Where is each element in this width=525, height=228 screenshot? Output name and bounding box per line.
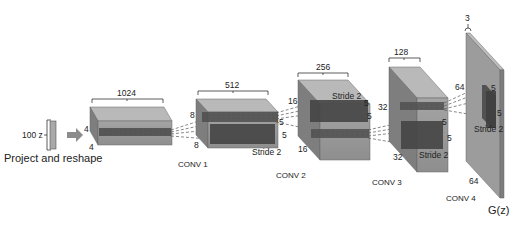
project-depth-label: 4 — [89, 142, 94, 152]
project-width-label: 1024 — [117, 88, 136, 98]
conv4-height-label: 64 — [455, 82, 465, 92]
conv3-block: 128 32 32 5 5 Stride 2 — [378, 47, 452, 172]
conv4-depth-label: 64 — [469, 176, 479, 186]
conv2-block: 256 16 16 5 5 Stride 2 — [288, 62, 372, 160]
project-caption: Project and reshape — [4, 152, 102, 164]
conv1-depth-label: 8 — [194, 140, 199, 150]
conv4-kernel-b: 5 — [497, 108, 502, 118]
conv3-stride-label: Stride 2 — [419, 150, 449, 160]
conv3-height-label: 32 — [378, 102, 388, 112]
conv2-kernel-b: 5 — [367, 111, 372, 121]
diagram-canvas: 100 z Project and reshape 1024 4 4 512 — [0, 0, 525, 228]
conv1-width-label: 512 — [225, 80, 239, 90]
conv2-depth-label: 16 — [298, 144, 308, 154]
project-arrow-icon — [67, 128, 83, 142]
conv2-kernel-a: 5 — [364, 98, 369, 108]
architecture-diagram: 100 z Project and reshape 1024 4 4 512 — [0, 0, 525, 228]
conv2-width-label: 256 — [316, 62, 330, 72]
conv4-width-label: 3 — [465, 13, 470, 23]
input-z-vector: 100 z — [22, 120, 56, 150]
conv1-height-label: 8 — [190, 110, 195, 120]
conv4-caption: CONV 4 — [446, 194, 476, 203]
conv3-depth-label: 32 — [393, 152, 403, 162]
conv3-kernel-a: 5 — [442, 117, 447, 127]
conv3-kernel-b: 5 — [447, 133, 452, 143]
conv4-kernel-a: 5 — [491, 83, 496, 93]
conv3-width-label: 128 — [394, 47, 408, 57]
conv1-kernel-b: 5 — [282, 130, 287, 140]
output-label: G(z) — [488, 204, 509, 216]
conv1-caption: CONV 1 — [178, 160, 208, 169]
conv3-caption: CONV 3 — [372, 178, 402, 187]
conv2-height-label: 16 — [288, 96, 298, 106]
conv2-caption: CONV 2 — [276, 171, 306, 180]
conv1-stride-label: Stride 2 — [252, 147, 282, 157]
conv4-output-plane: 3 64 64 5 5 Stride 2 — [455, 13, 504, 198]
input-z-label: 100 z — [22, 130, 43, 140]
conv2-stride-label: Stride 2 — [332, 91, 362, 101]
project-height-label: 4 — [84, 124, 89, 134]
conv1-block: 512 8 8 5 5 Stride 2 — [190, 80, 287, 157]
conv4-stride-label: Stride 2 — [474, 124, 504, 134]
project-block: 1024 4 4 — [84, 88, 172, 152]
